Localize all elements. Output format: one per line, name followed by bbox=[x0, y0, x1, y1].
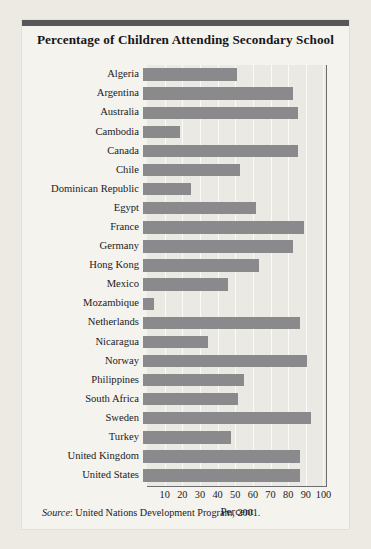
bar-label-philippines: Philippines bbox=[22, 375, 143, 386]
bar-track bbox=[143, 332, 323, 351]
bar-label-argentina: Argentina bbox=[22, 88, 143, 99]
bar-row: Sweden bbox=[22, 409, 349, 428]
bar-row: Turkey bbox=[22, 428, 349, 447]
bar-row: Egypt bbox=[22, 199, 349, 218]
bar-track bbox=[143, 351, 323, 370]
x-tick-40: 40 bbox=[212, 489, 222, 500]
bar-united-states bbox=[143, 469, 300, 481]
x-tick-100: 100 bbox=[316, 489, 331, 500]
bar-label-cambodia: Cambodia bbox=[22, 127, 143, 138]
bar-track bbox=[143, 390, 323, 409]
bar-label-mexico: Mexico bbox=[22, 279, 143, 290]
bar-row: Algeria bbox=[22, 65, 349, 84]
bar-south-africa bbox=[143, 393, 238, 405]
x-tick-70: 70 bbox=[265, 489, 275, 500]
bar-rows: AlgeriaArgentinaAustraliaCambodiaCanadaC… bbox=[22, 65, 349, 479]
bar-united-kingdom bbox=[143, 450, 300, 462]
bar-row: Chile bbox=[22, 160, 349, 179]
bar-mexico bbox=[143, 278, 228, 290]
bar-label-united-kingdom: United Kingdom bbox=[22, 451, 143, 462]
bar-row: Canada bbox=[22, 141, 349, 160]
x-tick-90: 90 bbox=[301, 489, 311, 500]
x-tick-30: 30 bbox=[195, 489, 205, 500]
bar-label-france: France bbox=[22, 222, 143, 233]
bar-track bbox=[143, 103, 323, 122]
bar-track bbox=[143, 256, 323, 275]
chart-title: Percentage of Children Attending Seconda… bbox=[22, 32, 349, 48]
bar-row: Mozambique bbox=[22, 294, 349, 313]
bar-row: United Kingdom bbox=[22, 447, 349, 466]
bar-nicaragua bbox=[143, 336, 208, 348]
bar-track bbox=[143, 141, 323, 160]
bar-track bbox=[143, 294, 323, 313]
bar-label-canada: Canada bbox=[22, 146, 143, 157]
source-text: United Nations Development Program, 2001… bbox=[75, 507, 260, 518]
x-tick-50: 50 bbox=[230, 489, 240, 500]
bar-label-norway: Norway bbox=[22, 356, 143, 367]
bar-label-chile: Chile bbox=[22, 165, 143, 176]
bar-turkey bbox=[143, 431, 231, 443]
bar-track bbox=[143, 84, 323, 103]
bar-row: Australia bbox=[22, 103, 349, 122]
bar-label-germany: Germany bbox=[22, 241, 143, 252]
x-tick-20: 20 bbox=[177, 489, 187, 500]
bar-row: Netherlands bbox=[22, 313, 349, 332]
bar-philippines bbox=[143, 374, 244, 386]
bar-track bbox=[143, 371, 323, 390]
bar-track bbox=[143, 313, 323, 332]
bar-row: Hong Kong bbox=[22, 256, 349, 275]
x-tick-60: 60 bbox=[248, 489, 258, 500]
bar-france bbox=[143, 221, 304, 233]
bar-label-australia: Australia bbox=[22, 107, 143, 118]
bar-label-netherlands: Netherlands bbox=[22, 317, 143, 328]
bar-track bbox=[143, 466, 323, 485]
x-tick-10: 10 bbox=[159, 489, 169, 500]
bar-track bbox=[143, 65, 323, 84]
bar-row: South Africa bbox=[22, 390, 349, 409]
bar-row: Argentina bbox=[22, 84, 349, 103]
bar-sweden bbox=[143, 412, 311, 424]
bar-row: France bbox=[22, 218, 349, 237]
source-note: Source: United Nations Development Progr… bbox=[42, 507, 260, 518]
chart-area: AlgeriaArgentinaAustraliaCambodiaCanadaC… bbox=[22, 57, 349, 497]
bar-label-nicaragua: Nicaragua bbox=[22, 337, 143, 348]
x-axis-ticks: 102030405060708090100 bbox=[147, 489, 327, 505]
card-content: Percentage of Children Attending Seconda… bbox=[22, 20, 349, 529]
bar-row: Philippines bbox=[22, 371, 349, 390]
bar-track bbox=[143, 218, 323, 237]
bar-australia bbox=[143, 107, 298, 119]
bar-label-south-africa: South Africa bbox=[22, 394, 143, 405]
bar-row: Norway bbox=[22, 351, 349, 370]
bar-track bbox=[143, 275, 323, 294]
bar-track bbox=[143, 180, 323, 199]
bar-label-algeria: Algeria bbox=[22, 69, 143, 80]
bar-chile bbox=[143, 164, 240, 176]
bar-dominican-republic bbox=[143, 183, 191, 195]
bar-norway bbox=[143, 355, 307, 367]
bar-label-hong-kong: Hong Kong bbox=[22, 260, 143, 271]
bar-row: Dominican Republic bbox=[22, 180, 349, 199]
bar-track bbox=[143, 237, 323, 256]
bar-cambodia bbox=[143, 126, 180, 138]
bar-hong-kong bbox=[143, 259, 259, 271]
bar-label-turkey: Turkey bbox=[22, 432, 143, 443]
bar-track bbox=[143, 447, 323, 466]
bar-label-dominican-republic: Dominican Republic bbox=[22, 184, 143, 195]
bar-label-sweden: Sweden bbox=[22, 413, 143, 424]
bar-track bbox=[143, 122, 323, 141]
bar-label-egypt: Egypt bbox=[22, 203, 143, 214]
bar-egypt bbox=[143, 202, 256, 214]
bar-track bbox=[143, 428, 323, 447]
bar-canada bbox=[143, 145, 298, 157]
bar-track bbox=[143, 199, 323, 218]
bar-row: Cambodia bbox=[22, 122, 349, 141]
x-tick-80: 80 bbox=[283, 489, 293, 500]
bar-track bbox=[143, 160, 323, 179]
bar-mozambique bbox=[143, 298, 154, 310]
bar-track bbox=[143, 409, 323, 428]
bar-row: Germany bbox=[22, 237, 349, 256]
bar-row: Mexico bbox=[22, 275, 349, 294]
source-word: Source bbox=[42, 507, 70, 518]
bar-label-mozambique: Mozambique bbox=[22, 298, 143, 309]
bar-germany bbox=[143, 240, 293, 252]
